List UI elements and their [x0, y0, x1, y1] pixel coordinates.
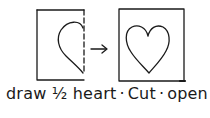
caption-open: open [167, 84, 208, 103]
heart-icon [126, 26, 169, 73]
caption-cut: Cut [128, 84, 156, 103]
caption-separator: · [159, 84, 164, 103]
caption-heart: heart [73, 84, 117, 103]
arrow-right-icon [91, 45, 107, 53]
half-heart-icon [58, 22, 83, 73]
caption-draw: draw [6, 84, 46, 103]
instruction-caption: draw ½ heart·Cut·open [6, 84, 206, 103]
caption-half: ½ [52, 84, 68, 103]
caption-separator: · [119, 84, 124, 103]
folded-paper-icon [37, 10, 84, 80]
